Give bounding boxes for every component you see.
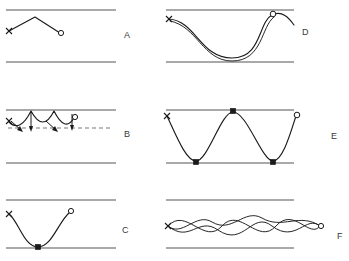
panel-f-trajectory-wave-2 (168, 216, 320, 230)
panel-c-trajectory (9, 212, 70, 247)
panel-f-start-marker (165, 223, 171, 229)
panel-a-trajectory (9, 17, 60, 33)
panel-e-contact-marker-3 (270, 159, 275, 164)
panel-b-end-marker (72, 114, 77, 119)
panel-b-arrow-2 (29, 113, 33, 132)
panel-e-contact-marker-1 (193, 159, 198, 164)
panel-b: B (6, 110, 130, 163)
panel-e-end-marker (294, 112, 300, 118)
panel-d-trajectory-main (169, 13, 294, 58)
panel-label-b: B (124, 129, 130, 139)
panel-b-trajectory (9, 111, 74, 126)
panel-f-end-marker (318, 223, 323, 228)
panel-label-a: A (124, 30, 130, 40)
panel-e-trajectory (167, 112, 296, 161)
panel-a-end-marker (58, 30, 63, 35)
panel-a: A (6, 10, 130, 62)
panel-f-trajectory-wave-1 (168, 220, 320, 232)
panel-c: C (6, 200, 129, 250)
panel-e-contact-marker-2 (230, 108, 235, 113)
panel-label-c: C (122, 225, 129, 235)
panel-c-start-marker (6, 211, 12, 217)
panel-c-end-marker (68, 208, 73, 213)
panel-e: E (164, 108, 337, 164)
panel-d: D (166, 10, 309, 62)
panel-b-arrow-3 (46, 121, 58, 132)
panel-label-d: D (302, 27, 309, 37)
panel-label-e: E (331, 131, 337, 141)
trajectory-figure: A B (0, 0, 349, 261)
panel-f: F (165, 200, 343, 248)
panel-label-f: F (337, 231, 343, 241)
panel-c-contact-marker (35, 244, 40, 249)
panel-d-end-marker (270, 11, 276, 17)
panel-b-arrow-1 (11, 121, 23, 132)
panel-a-start-marker (6, 28, 12, 34)
panel-e-start-marker (164, 113, 170, 119)
